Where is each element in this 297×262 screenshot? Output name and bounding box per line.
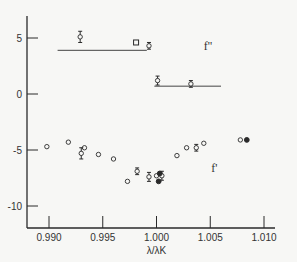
filled-circle-marker <box>156 179 161 184</box>
y-tick-label: 5 <box>16 33 22 44</box>
open-square-marker <box>134 40 139 45</box>
y-tick-label: -10 <box>8 201 23 212</box>
axes: 50-5-100.9900.9951.0001.0051.010λ/λK <box>8 16 277 256</box>
open-circle-marker <box>66 140 70 144</box>
open-circle-marker <box>79 151 83 155</box>
open-circle-marker <box>78 35 82 39</box>
open-circle-marker <box>155 78 159 82</box>
filled-circle-marker <box>244 138 249 143</box>
open-circle-marker <box>45 144 49 148</box>
open-circle-marker <box>147 175 151 179</box>
open-circle-marker <box>184 146 188 150</box>
open-circle-marker <box>96 152 100 156</box>
open-circle-marker <box>189 82 193 86</box>
open-circle-marker <box>238 138 242 142</box>
curve-label: f' <box>211 161 217 175</box>
x-tick-label: 0.990 <box>36 232 61 243</box>
annotations: f''f' <box>204 39 218 175</box>
open-circle-marker <box>202 141 206 145</box>
open-circle-marker <box>135 169 139 173</box>
curve-label: f'' <box>204 39 212 53</box>
y-tick-label: 0 <box>16 89 22 100</box>
open-circle-marker <box>125 179 129 183</box>
open-circle-marker <box>175 153 179 157</box>
reference-lines <box>58 50 221 86</box>
filled-circle-marker <box>157 171 162 176</box>
x-tick-label: 1.010 <box>251 232 276 243</box>
y-tick-label: -5 <box>13 145 22 156</box>
x-tick-label: 1.000 <box>144 232 169 243</box>
x-tick-label: 1.005 <box>198 232 223 243</box>
data-points <box>45 31 250 183</box>
open-circle-marker <box>194 146 198 150</box>
x-axis-label: λ/λK <box>147 245 167 256</box>
chart-svg: 50-5-100.9900.9951.0001.0051.010λ/λK f''… <box>0 0 297 262</box>
x-tick-label: 0.995 <box>90 232 115 243</box>
open-circle-marker <box>147 44 151 48</box>
open-circle-marker <box>111 157 115 161</box>
